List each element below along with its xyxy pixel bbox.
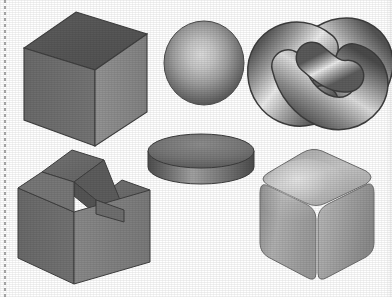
shape-cylinder [143,117,259,195]
shape-sphere [160,18,248,110]
shape-cube [18,8,158,153]
dotted-margin-rule [4,0,6,297]
figure-canvas [0,0,392,297]
shape-rounded-cube [254,143,386,293]
page-edge-shadow [386,0,392,297]
shape-trefoil-knot [252,14,386,138]
sphere-body [164,21,244,105]
cylinder-top-face [148,134,254,168]
shape-notched-block [12,144,158,294]
knot-tubes [264,34,377,113]
rounded-cube-highlight [262,159,350,231]
